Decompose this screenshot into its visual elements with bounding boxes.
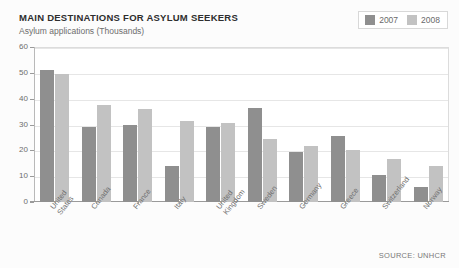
chart-figure: MAIN DESTINATIONS FOR ASYLUM SEEKERS Asy… [0,0,459,268]
bar-series-container [34,47,449,202]
x-tick-mark [138,201,139,204]
legend-label-2007: 2007 [379,15,398,25]
legend-item-2008: 2008 [407,15,440,25]
x-tick-mark [55,201,56,204]
y-tick-label: 20 [2,145,28,154]
chart-subtitle: Asylum applications (Thousands) [19,26,144,36]
y-tick-label: 50 [2,68,28,77]
legend-item-2007: 2007 [365,15,398,25]
chart-title: MAIN DESTINATIONS FOR ASYLUM SEEKERS [19,12,238,23]
bar-group [408,47,450,202]
x-tick-mark [345,201,346,204]
y-tick-label: 30 [2,120,28,129]
bar-group [242,47,284,202]
bar-group [200,47,242,202]
x-tick-mark [221,201,222,204]
x-tick-mark [304,201,305,204]
chart-legend: 2007 2008 [358,11,448,29]
bar-2007 [372,175,386,202]
legend-swatch-2007 [365,15,375,25]
bar-group [159,47,201,202]
y-tick-label: 10 [2,171,28,180]
bar-2008 [180,121,194,202]
x-tick-mark [96,201,97,204]
bar-2007 [165,166,179,202]
bar-2007 [123,125,137,203]
bar-2007 [331,136,345,202]
y-tick-label: 60 [2,42,28,51]
source-note: SOURCE: UNHCR [379,251,446,260]
y-tick-mark [30,202,34,203]
bar-2007 [206,127,220,202]
x-tick-mark [262,201,263,204]
bar-2007 [289,152,303,202]
legend-swatch-2008 [407,15,417,25]
bar-group [325,47,367,202]
bar-group [117,47,159,202]
bar-2007 [248,108,262,202]
bar-group [76,47,118,202]
bar-group [283,47,325,202]
bar-2007 [40,70,54,202]
y-tick-label: 0 [2,197,28,206]
bar-group [34,47,76,202]
x-tick-mark [179,201,180,204]
x-tick-mark [387,201,388,204]
legend-label-2008: 2008 [421,15,440,25]
bar-2007 [82,127,96,202]
y-tick-label: 40 [2,94,28,103]
x-tick-mark [428,201,429,204]
bar-2008 [55,74,69,202]
